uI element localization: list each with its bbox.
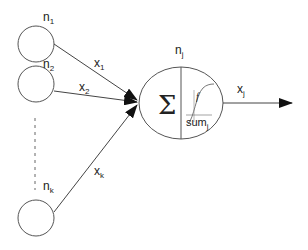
- neuron-label: nj: [175, 43, 184, 59]
- node-label-nk: nk: [43, 179, 55, 195]
- input-node-nk: nk: [18, 179, 55, 236]
- input-node-n2: n2: [18, 57, 55, 102]
- sigma-symbol: Σ: [158, 90, 176, 120]
- sum-label: sumj: [186, 116, 209, 131]
- neuron-diagram: n1 n2 nk x1 x2 xk nj Σ f sumj xj: [0, 0, 308, 250]
- neuron-nj: nj Σ f sumj: [139, 43, 223, 139]
- svg-text:xk: xk: [94, 164, 105, 180]
- svg-text:x2: x2: [79, 80, 90, 96]
- output-edge-xj: xj: [223, 82, 292, 103]
- node-label-n1: n1: [43, 10, 55, 26]
- input-node-n1: n1: [18, 10, 55, 62]
- edge-xk: xk: [54, 105, 137, 212]
- svg-text:x1: x1: [94, 56, 105, 72]
- edge-x1: x1: [54, 44, 137, 100]
- activation-label: f: [196, 91, 200, 102]
- node-label-n2: n2: [43, 57, 55, 73]
- output-label: xj: [237, 82, 245, 98]
